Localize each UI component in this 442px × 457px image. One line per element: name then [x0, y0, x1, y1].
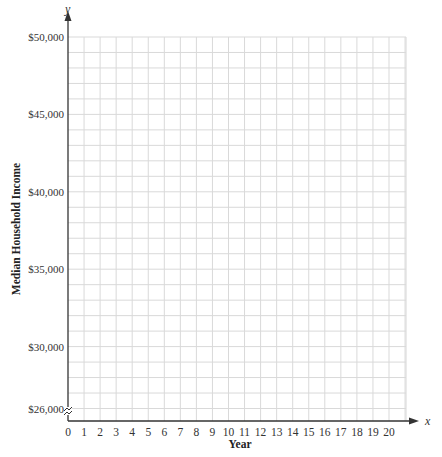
svg-text:9: 9	[210, 426, 216, 438]
svg-text:14: 14	[287, 426, 299, 438]
svg-text:4: 4	[129, 426, 135, 438]
svg-text:$26,000: $26,000	[28, 403, 64, 415]
svg-text:$45,000: $45,000	[28, 108, 64, 120]
y-axis-label: Median Household Income	[10, 163, 22, 295]
svg-text:20: 20	[383, 426, 395, 438]
svg-text:19: 19	[367, 426, 379, 438]
svg-text:$30,000: $30,000	[28, 341, 64, 353]
empty-graph-grid: 01234567891011121314151617181920 $26,000…	[0, 0, 442, 457]
svg-text:11: 11	[239, 426, 250, 438]
svg-text:7: 7	[177, 426, 183, 438]
grid-lines	[68, 37, 406, 421]
svg-text:8: 8	[194, 426, 200, 438]
svg-text:6: 6	[161, 426, 167, 438]
x-axis-variable: x	[424, 414, 431, 428]
y-tick-labels: $26,000$30,000$35,000$40,000$45,000$50,0…	[28, 31, 64, 415]
svg-text:12: 12	[255, 426, 267, 438]
svg-text:5: 5	[145, 426, 151, 438]
svg-text:13: 13	[271, 426, 283, 438]
svg-text:$40,000: $40,000	[28, 186, 64, 198]
svg-text:$50,000: $50,000	[28, 31, 64, 43]
svg-text:$35,000: $35,000	[28, 263, 64, 275]
svg-text:15: 15	[303, 426, 315, 438]
svg-text:1: 1	[81, 426, 87, 438]
x-tick-labels: 01234567891011121314151617181920	[65, 426, 395, 438]
svg-text:18: 18	[351, 426, 363, 438]
svg-text:10: 10	[223, 426, 235, 438]
svg-text:0: 0	[65, 426, 71, 438]
svg-text:17: 17	[335, 426, 347, 438]
x-axis-label: Year	[229, 438, 252, 450]
x-axis-arrow-icon	[409, 418, 419, 425]
svg-text:3: 3	[113, 426, 119, 438]
svg-text:16: 16	[319, 426, 331, 438]
y-axis-variable: y	[64, 2, 71, 16]
svg-text:2: 2	[97, 426, 103, 438]
